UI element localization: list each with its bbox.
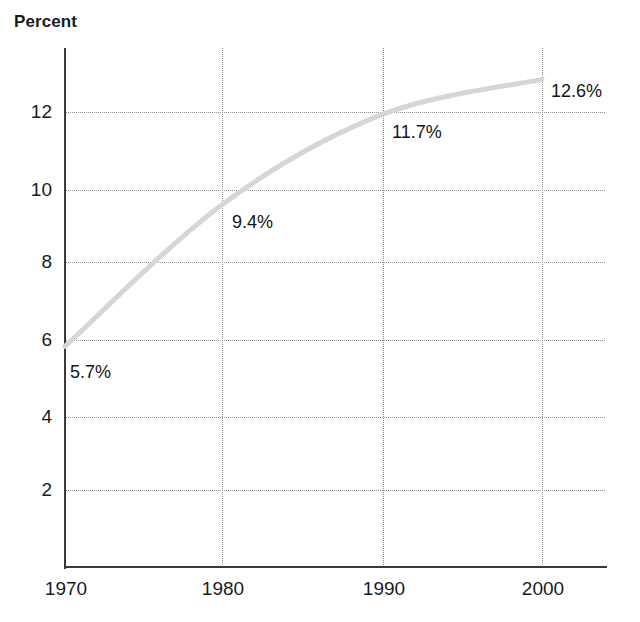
plot-area: [65, 48, 605, 567]
line-chart: Percent 12 10 8 6 4 2 1970 1980 1990 200…: [0, 0, 640, 622]
point-label-1970: 5.7%: [70, 362, 111, 383]
point-label-1990: 11.7%: [392, 122, 442, 143]
gridline-y-12: [65, 112, 605, 113]
y-tick-label-12: 12: [12, 101, 52, 123]
gridline-y-8: [65, 262, 605, 263]
y-axis-tick-labels: 12 10 8 6 4 2: [0, 0, 52, 622]
gridline-y-6: [65, 340, 605, 341]
y-tick-label-8: 8: [12, 251, 52, 273]
point-label-2000: 12.6%: [551, 81, 602, 102]
y-tick-label-2: 2: [12, 479, 52, 501]
gridline-x-1990: [383, 48, 384, 567]
gridline-y-2: [65, 490, 605, 491]
y-tick-label-4: 4: [12, 406, 52, 428]
gridline-x-2000: [542, 48, 543, 567]
point-label-1980: 9.4%: [232, 212, 273, 233]
y-axis-line: [64, 48, 66, 569]
x-tick-label-1980: 1980: [202, 578, 244, 600]
gridline-x-1980: [222, 48, 223, 567]
gridline-y-10: [65, 190, 605, 191]
x-tick-label-2000: 2000: [522, 578, 564, 600]
y-tick-label-10: 10: [12, 179, 52, 201]
y-tick-label-6: 6: [12, 329, 52, 351]
gridline-y-4: [65, 417, 605, 418]
x-tick-label-1990: 1990: [363, 578, 405, 600]
x-tick-label-1970: 1970: [45, 578, 87, 600]
x-axis-line: [64, 566, 607, 568]
